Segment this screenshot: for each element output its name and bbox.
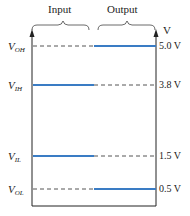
voh-value: 5.0 V bbox=[159, 40, 181, 52]
unit-label: V bbox=[163, 24, 171, 36]
output-brace bbox=[98, 21, 155, 30]
vil-value: 1.5 V bbox=[159, 150, 181, 162]
left-axis-arrow-icon bbox=[30, 29, 35, 37]
vol-value: 0.5 V bbox=[159, 183, 181, 195]
vih-label: VIH bbox=[8, 79, 22, 95]
output-header: Output bbox=[107, 3, 138, 15]
input-header: Input bbox=[48, 3, 71, 15]
input-brace bbox=[32, 21, 89, 30]
vol-label: VOL bbox=[8, 183, 24, 199]
voh-label: VOH bbox=[8, 40, 25, 56]
right-axis-arrow-icon bbox=[154, 29, 159, 37]
vil-label: VIL bbox=[8, 150, 21, 166]
vih-value: 3.8 V bbox=[159, 79, 181, 91]
